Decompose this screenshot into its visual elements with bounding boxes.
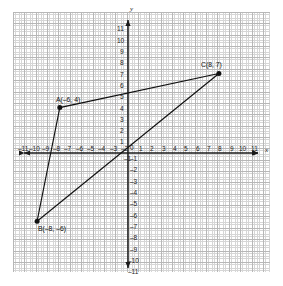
vertex-point-a: [57, 105, 62, 110]
y-tick-label--4: –4: [130, 190, 137, 197]
x-tick-label-1: 1: [139, 146, 143, 153]
y-tick-label-9: 9: [120, 49, 124, 56]
x-tick-label-3: 3: [162, 146, 166, 153]
x-tick-label--9: –9: [42, 146, 49, 153]
x-tick-label--2: –2: [121, 146, 128, 153]
y-tick-label-11: 11: [117, 26, 124, 33]
y-tick-label--11: –11: [128, 269, 138, 276]
y-tick-label--8: –8: [130, 235, 137, 242]
x-tick-label-5: 5: [184, 146, 188, 153]
x-tick-label-11: 11: [251, 146, 258, 153]
vertex-label-a: A(–6, 4): [56, 97, 80, 104]
vertex-point-c: [216, 71, 221, 76]
y-tick-label--3: –3: [130, 179, 137, 186]
y-tick-label--2: –2: [130, 167, 137, 174]
x-tick-label--6: –6: [76, 146, 83, 153]
y-tick-label-3: 3: [120, 117, 124, 124]
y-tick-label--1: –1: [130, 156, 137, 163]
x-tick-label--8: –8: [53, 146, 60, 153]
x-tick-label-8: 8: [218, 146, 222, 153]
y-tick-label-1: 1: [120, 139, 124, 146]
x-tick-label-6: 6: [196, 146, 200, 153]
x-tick-label-9: 9: [230, 146, 234, 153]
graph-vector-layer: [0, 0, 283, 286]
x-tick-label--7: –7: [64, 146, 71, 153]
y-tick-label--9: –9: [130, 247, 137, 254]
x-tick-label-4: 4: [173, 146, 177, 153]
x-tick-label--11: –11: [18, 146, 28, 153]
x-tick-label--3: –3: [110, 146, 117, 153]
x-tick-label--5: –5: [87, 146, 94, 153]
y-tick-label-10: 10: [117, 38, 124, 45]
x-tick-label-2: 2: [150, 146, 154, 153]
y-tick-label-6: 6: [120, 83, 124, 90]
x-axis-letter: x: [265, 147, 268, 154]
x-tick-label-10: 10: [239, 146, 246, 153]
y-axis-letter: y: [130, 6, 133, 13]
y-tick-label--10: –10: [128, 258, 139, 265]
y-tick-label-8: 8: [120, 60, 124, 67]
x-tick-label-7: 7: [207, 146, 211, 153]
y-tick-label-4: 4: [120, 106, 124, 113]
vertex-point-b: [35, 219, 40, 224]
origin-label: 0: [130, 145, 134, 152]
coordinate-plane-graph: y x –11 –10 –9 –8 –7 –6 –5 –4 –3 –2 –1 0…: [0, 0, 283, 286]
y-tick-label-7: 7: [120, 72, 124, 79]
x-tick-label--4: –4: [98, 146, 105, 153]
y-tick-label--6: –6: [130, 213, 137, 220]
y-tick-label-2: 2: [120, 128, 124, 135]
y-tick-label--5: –5: [130, 201, 137, 208]
y-tick-label-5: 5: [120, 94, 124, 101]
vertex-label-b: B(–8, –6): [38, 226, 66, 233]
y-tick-label--7: –7: [130, 224, 137, 231]
x-tick-label--10: –10: [29, 146, 40, 153]
vertex-label-c: C(8, 7): [201, 62, 222, 69]
